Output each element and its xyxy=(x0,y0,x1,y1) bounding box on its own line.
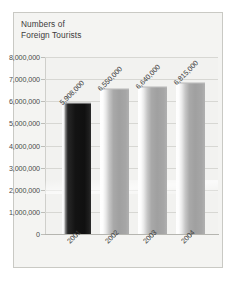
bar-2003[interactable] xyxy=(138,87,167,234)
bar-chart-figure: Numbers of Foreign Tourists 8,000,0007,0… xyxy=(0,0,237,281)
bar-body xyxy=(176,83,205,234)
bars-layer xyxy=(0,0,237,281)
bar-body xyxy=(138,87,167,234)
bar-2001[interactable] xyxy=(62,103,91,234)
bar-2002[interactable] xyxy=(100,89,129,234)
bar-2004[interactable] xyxy=(176,83,205,234)
bar-body xyxy=(100,89,129,234)
bar-body xyxy=(62,103,91,234)
